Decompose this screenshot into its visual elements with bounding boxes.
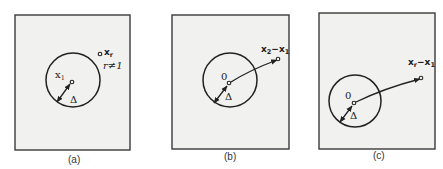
diagram-figure: x1 Δ xr r≠1 (a) 0 Δ x2−x1 (b) 0 Δ xr−x1 …	[0, 0, 443, 169]
panel-c-frame	[319, 13, 435, 149]
panel-c-center-point	[352, 101, 356, 105]
panel-c-vector-endpoint	[419, 76, 423, 80]
panel-c: 0 Δ xr−x1 (c)	[319, 13, 435, 161]
panel-a: x1 Δ xr r≠1 (a)	[15, 15, 130, 165]
panel-b: 0 Δ x2−x1 (b)	[172, 15, 290, 162]
panel-c-center-label: 0	[345, 90, 351, 101]
panel-b-radius-label: Δ	[225, 91, 232, 102]
panel-b-caption: (b)	[224, 151, 236, 162]
panel-b-center-label: 0	[221, 71, 227, 82]
panel-b-vector-endpoint	[276, 57, 280, 61]
panel-c-radius-label: Δ	[350, 110, 357, 121]
panel-a-condition-label: r≠1	[103, 60, 123, 71]
panel-c-caption: (c)	[373, 150, 385, 161]
panel-a-radius-label: Δ	[70, 94, 77, 105]
panel-a-outer-point	[98, 52, 102, 56]
panel-b-center-point	[227, 81, 231, 85]
panel-a-center-point	[70, 80, 74, 84]
panel-a-caption: (a)	[68, 154, 80, 165]
